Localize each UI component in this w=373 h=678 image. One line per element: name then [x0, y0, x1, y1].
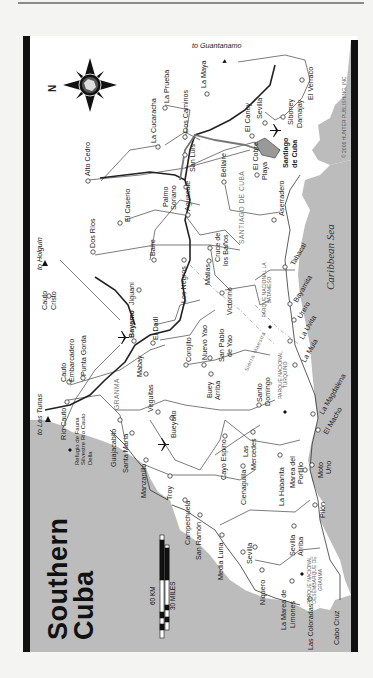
- place-media-luna: Media Luna: [217, 542, 225, 580]
- place-cayo-espino: Cayo Espino: [220, 439, 228, 480]
- park-turquino: PARQUE NACIONAL TURQUINO: [278, 345, 289, 405]
- place-de-yao: de Yao: [226, 335, 234, 357]
- park-la-bataneso: PARQUE NACIONAL LA BATAMESO: [262, 260, 273, 320]
- place-buey-arriba: Arriba: [214, 381, 222, 400]
- place-rio-cauto: Río Cauto: [60, 408, 68, 440]
- place-nuevo-yao: Nuevo Yao: [201, 325, 209, 360]
- place-aserradero: Aserradero: [278, 180, 286, 216]
- place-troy: Troy: [166, 486, 174, 500]
- scale-km-label: 60 KM: [150, 586, 157, 605]
- place-de-cuba: de Cuba: [291, 140, 299, 168]
- place-alto-cedro: Alto Cedro: [84, 142, 92, 176]
- place-victorino: Victorino: [226, 287, 234, 315]
- place-cauto-cristo-2: Cristo: [50, 291, 58, 310]
- copyright: © 2006 HUNTER PUBLISHING, INC: [342, 77, 347, 158]
- place-bellaire: Bellaire: [220, 153, 228, 177]
- place-pilon: Pilón: [319, 502, 327, 518]
- place-dos-caminos: Dos Caminos: [182, 90, 190, 133]
- place-cauto-cristo-1: Cauto: [41, 291, 49, 310]
- to-las-tunas-label: to Las Tunas: [36, 394, 44, 435]
- place-campechuela: Campechuela: [184, 501, 192, 545]
- place-damajay: Damajay: [296, 100, 304, 128]
- park-desembarque-granma: PARQUE NACIONAL DESEMBARQUE DE GRANMA: [307, 550, 323, 610]
- place-playa: Playa: [261, 162, 269, 180]
- place-santa-maria: Santa María: [122, 434, 130, 473]
- title-line-1: Southern: [46, 518, 72, 641]
- compass-rose-icon: [63, 58, 117, 112]
- place-jiguani: Jiguani: [128, 282, 136, 305]
- region-santiago: SANTIAGO DE CUBA: [239, 171, 246, 244]
- place-san-ramon: San Ramón: [195, 522, 203, 560]
- sea-label: Caribbean Sea: [325, 224, 337, 290]
- place-bueycito: Bueycito: [170, 410, 178, 438]
- title-line-2: Cuba: [72, 518, 98, 641]
- place-baire: Baire: [149, 239, 157, 256]
- place-punta-gorda: Punta Gorda: [80, 335, 88, 376]
- place-la-prueba: La Prueba: [163, 70, 171, 103]
- place-siboney: Siboney: [287, 99, 295, 125]
- frame-bar-right: [351, 40, 358, 652]
- place-cienaguilla: Cienaguilla: [240, 469, 248, 505]
- place-corojito: Corojito: [185, 337, 193, 362]
- place-cabo-cruz: Cabo Cruz: [333, 611, 341, 645]
- frame-bar-left: [23, 36, 30, 652]
- place-matias: Matias: [204, 264, 212, 285]
- place-la-marea: La Marea de: [280, 590, 288, 630]
- place-uno: Uno: [325, 461, 333, 474]
- refugio-label: Refugio de Fauna Silvestre Río Cauto Del…: [74, 410, 93, 465]
- place-sevilla-west: Sevilla: [246, 543, 254, 564]
- place-el-verraco: El Verraco: [307, 67, 315, 100]
- place-el-caney: El Caney: [244, 103, 252, 132]
- place-aguacate: Aguacate: [184, 181, 192, 211]
- place-niquero: Niquero: [259, 580, 267, 605]
- to-holguin-label: to Holguín: [36, 237, 44, 270]
- place-el-dadl: El Dadl: [152, 317, 160, 340]
- place-san-luis: San Luis: [189, 144, 197, 172]
- map-title: Southern Cuba: [46, 518, 97, 641]
- place-dos-rios: Dos Ríos: [89, 218, 97, 248]
- place-la-cucaracha: La Cucaracha: [150, 98, 158, 143]
- place-el-cobre: El Cobre: [252, 142, 260, 170]
- place-limones: Limones: [289, 601, 297, 628]
- place-portillo: Portillo: [297, 462, 305, 484]
- place-santiago: Santiago: [282, 138, 290, 168]
- compass-north-label: N: [48, 85, 59, 92]
- place-soriano: Soriano: [170, 185, 178, 210]
- place-sevilla-arriba-2: Arriba: [297, 537, 305, 556]
- place-sevilla-east: Sevilla: [256, 98, 264, 119]
- place-manzanillo: Manzanillo: [140, 464, 148, 498]
- to-guantanamo-label: to Guantanamo: [192, 42, 242, 50]
- place-domingo: Domingo: [264, 377, 272, 406]
- scale-miles-label: 30 MILES: [170, 581, 177, 610]
- place-el-caserio: El Caserio: [124, 189, 132, 222]
- place-mabay: Mabay: [136, 355, 144, 377]
- place-bayamo: Bayamo: [128, 310, 136, 338]
- region-granma: GRANMA: [114, 378, 121, 410]
- place-mercedes: Mercedes: [250, 438, 258, 470]
- place-los-banos: los Baños: [222, 234, 230, 266]
- place-la-maya: La Maya: [200, 60, 208, 88]
- place-las-coloradas: Las Coloradas: [307, 604, 315, 650]
- place-los-negros: Los Negros: [180, 266, 188, 303]
- place-guajacabito: Guajacabito: [110, 429, 118, 467]
- place-la-habanita: La Habanita: [278, 467, 286, 506]
- place-veguitas: Veguitas: [147, 384, 155, 412]
- place-cauto-embarcadero-2: Embarcadero: [68, 339, 76, 382]
